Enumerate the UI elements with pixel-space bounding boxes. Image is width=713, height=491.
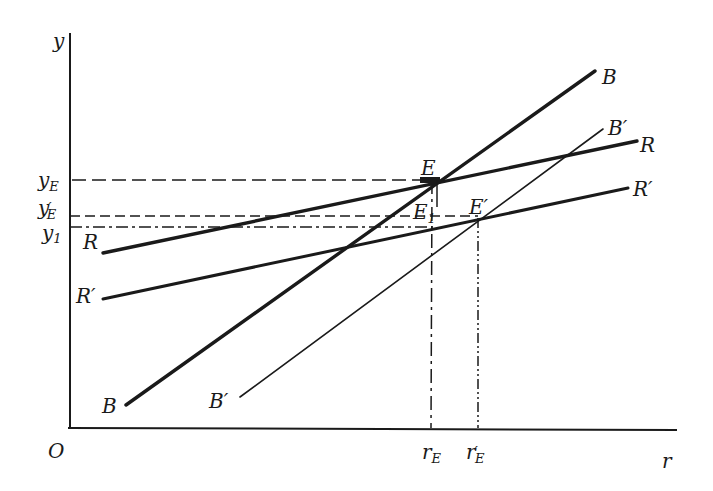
tick-label-rE-prime: r′E bbox=[466, 440, 485, 466]
curve-R-prime-label-left: R′ bbox=[75, 284, 96, 308]
tick-label-y1: y1 bbox=[41, 221, 62, 246]
curve-R-prime bbox=[103, 188, 628, 299]
tick-label-rE: rE bbox=[422, 440, 442, 466]
tick-label-yE-prime: y′E bbox=[37, 196, 57, 222]
curve-R bbox=[103, 141, 637, 253]
is-lm-diagram: y r O yE y′E y1 rE r′E R R R′ R′ B B B′ … bbox=[0, 0, 713, 491]
curve-B bbox=[126, 71, 595, 405]
curve-R-label-right: R bbox=[639, 133, 655, 157]
origin-label: O bbox=[48, 439, 64, 463]
point-E-label: E bbox=[420, 156, 436, 180]
tick-label-yE: yE bbox=[37, 168, 59, 194]
curve-B-prime-label-right: B′ bbox=[607, 116, 628, 140]
x-axis bbox=[68, 428, 677, 430]
point-E1-label: E1 bbox=[412, 200, 436, 226]
x-axis-label: r bbox=[662, 449, 673, 473]
curve-B-prime-label-left: B′ bbox=[208, 389, 229, 413]
y-axis-label: y bbox=[52, 29, 65, 53]
curve-B-label-right: B bbox=[601, 65, 617, 89]
curve-R-label-left: R bbox=[82, 230, 98, 254]
diagram-canvas: y r O yE y′E y1 rE r′E R R R′ R′ B B B′ … bbox=[0, 0, 713, 491]
point-E-prime-label: E′ bbox=[468, 195, 489, 219]
curve-R-prime-label-right: R′ bbox=[632, 177, 653, 201]
curve-B-label-left: B bbox=[101, 394, 117, 418]
